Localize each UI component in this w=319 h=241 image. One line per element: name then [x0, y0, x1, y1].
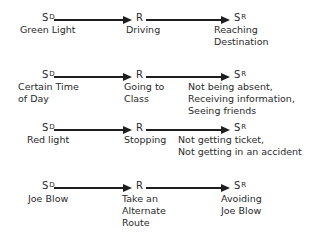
- r-label: Stopping: [124, 134, 166, 146]
- sr-label: Not getting ticket,Not getting in an acc…: [178, 134, 302, 158]
- sd-label: Joe Blow: [28, 193, 68, 205]
- arrow-icon: [146, 187, 228, 189]
- arrow-icon: [146, 76, 228, 78]
- sr-symbol: SR: [234, 181, 246, 191]
- sd-symbol: SD: [42, 70, 55, 80]
- sd-label: Green Light: [20, 24, 76, 36]
- sd-symbol: SD: [42, 181, 55, 191]
- sd-symbol: SD: [42, 123, 55, 133]
- sr-symbol: SR: [234, 123, 246, 133]
- sd-symbol: SD: [42, 13, 55, 23]
- arrow-icon: [54, 129, 130, 131]
- sr-label: ReachingDestination: [214, 24, 269, 48]
- r-symbol: R: [136, 13, 143, 23]
- arrow-icon: [54, 187, 130, 189]
- r-symbol: R: [136, 181, 143, 191]
- arrow-icon: [146, 19, 228, 21]
- sr-symbol: SR: [234, 13, 246, 23]
- sd-label: Certain Timeof Day: [18, 81, 79, 105]
- r-symbol: R: [136, 123, 143, 133]
- arrow-icon: [54, 76, 130, 78]
- r-label: Driving: [126, 24, 160, 36]
- r-symbol: R: [136, 70, 143, 80]
- sr-symbol: SR: [234, 70, 246, 80]
- arrow-icon: [146, 129, 228, 131]
- arrow-icon: [54, 19, 130, 21]
- sr-label: AvoidingJoe Blow: [221, 193, 262, 217]
- sr-label: Not being absent,Receiving information,S…: [188, 81, 295, 117]
- r-label: Going toClass: [124, 81, 164, 105]
- sd-label: Red light: [27, 134, 69, 146]
- r-label: Take anAlternateRoute: [122, 193, 166, 229]
